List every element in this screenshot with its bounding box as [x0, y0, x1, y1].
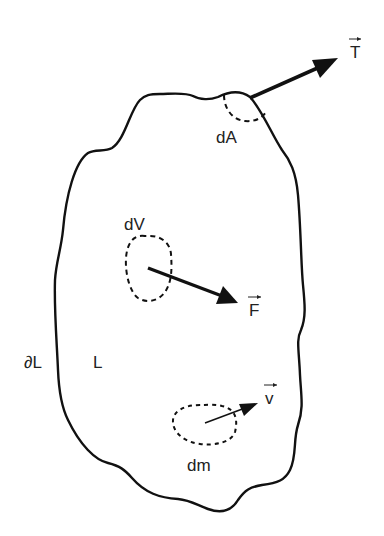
velocity-vector-arrow [205, 408, 245, 423]
label-body-force: F [248, 295, 261, 320]
velocity-arrowhead [239, 403, 258, 416]
traction-arrowhead [312, 58, 338, 78]
body-label: L [93, 353, 102, 372]
area-element-label: dA [216, 128, 237, 147]
mass-element-dashed [173, 405, 236, 445]
label-velocity: v [264, 383, 277, 408]
boundary-label: ∂L [24, 353, 42, 372]
traction-vector-arrow [250, 66, 322, 98]
continuum-body-diagram: T dA dV F ∂L L v dm [0, 0, 384, 536]
mass-element-label: dm [187, 456, 211, 475]
volume-element-label: dV [124, 215, 145, 234]
velocity-label: v [265, 389, 274, 408]
vector-overbar-tip-icon [357, 37, 361, 41]
traction-label: T [350, 43, 360, 62]
vector-overbar-tip-icon [257, 295, 261, 299]
body-force-vector-arrow [148, 268, 222, 296]
label-traction: T [349, 37, 361, 62]
body-force-label: F [249, 301, 259, 320]
area-element-dashed [224, 95, 266, 121]
vector-overbar-tip-icon [273, 383, 277, 387]
body-boundary-outline [55, 92, 305, 511]
